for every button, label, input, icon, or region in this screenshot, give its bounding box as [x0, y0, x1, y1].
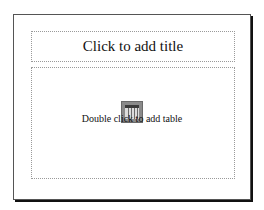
title-placeholder[interactable]: Click to add title [31, 31, 235, 62]
table-placeholder-text: Double click to add table [0, 113, 264, 124]
title-placeholder-text: Click to add title [83, 38, 183, 55]
slide-canvas: Click to add title [13, 14, 251, 200]
